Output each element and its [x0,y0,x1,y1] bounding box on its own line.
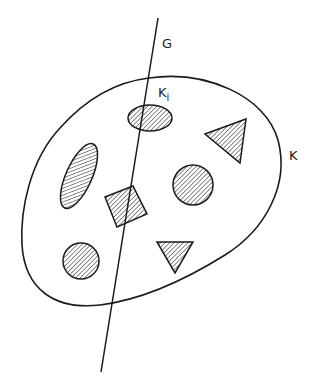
triangle-left-pointing [205,119,246,163]
label-ki-sub: i [167,92,170,103]
ellipse-ki [128,105,172,131]
circle-lower-left [63,243,99,279]
circle-center-right [173,165,213,205]
label-ki: Ki [158,85,169,103]
elongated-ellipse [53,139,105,214]
label-k: K [289,148,298,163]
diagram-canvas: G Ki K [0,0,313,383]
label-g: G [162,36,172,51]
triangle-down-pointing [157,242,193,273]
